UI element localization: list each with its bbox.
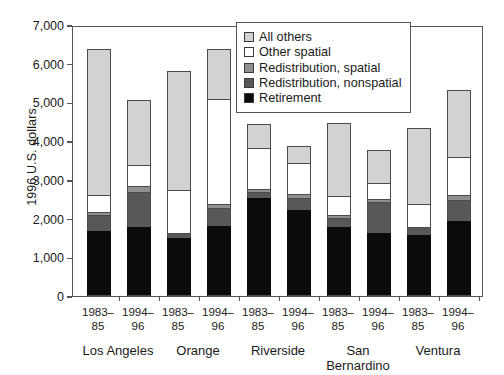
y-tick-label: 7,000 [0, 19, 64, 33]
bar-segment [87, 231, 111, 296]
x-tick-mark [479, 296, 480, 301]
x-group-label: Ventura [393, 343, 483, 358]
bar-stack [167, 71, 191, 296]
bar-segment [407, 204, 431, 227]
bar-segment [327, 123, 351, 196]
y-tick-label: 4,000 [0, 135, 64, 149]
bar-segment [87, 195, 111, 211]
x-tick-mark [159, 296, 160, 301]
bar-segment [287, 198, 311, 210]
bar-segment [247, 148, 271, 189]
bar-stack [127, 100, 151, 296]
y-tick-label: 3,000 [0, 174, 64, 188]
bar-segment [247, 124, 271, 148]
bar-segment [327, 218, 351, 227]
bar-stack [367, 150, 391, 296]
legend-label: Redistribution, nonspatial [259, 76, 401, 90]
x-group-label: San Bernardino [313, 343, 403, 373]
bar-stack [247, 124, 271, 296]
bar-segment [447, 157, 471, 194]
x-tick-mark [279, 296, 280, 301]
bar-segment [87, 215, 111, 230]
bar-segment [367, 183, 391, 200]
x-tick-mark [199, 296, 200, 301]
legend-label: All others [259, 30, 312, 44]
bar-segment [447, 221, 471, 296]
stacked-bar-chart: 1996 U.S. dollars 7,0006,0005,0004,0003,… [0, 0, 504, 375]
bar-segment [327, 196, 351, 215]
bar-stack [207, 49, 231, 296]
legend-swatch-icon [244, 78, 254, 88]
bar-segment [167, 238, 191, 296]
x-tick-mark [399, 296, 400, 301]
x-period-label: 1994– 96 [430, 306, 486, 333]
bar-segment [367, 233, 391, 296]
bar-segment [287, 146, 311, 163]
bar-segment [127, 227, 151, 296]
legend-label: Other spatial [259, 45, 331, 59]
bar-segment [207, 99, 231, 205]
legend-swatch-icon [244, 32, 254, 42]
legend-item: Other spatial [244, 45, 401, 59]
bar-segment [287, 163, 311, 194]
bar-stack [287, 146, 311, 296]
y-tick-label: 6,000 [0, 58, 64, 72]
bar-segment [367, 202, 391, 233]
bar-segment [167, 190, 191, 233]
y-tick-label: 1,000 [0, 251, 64, 265]
bar-segment [127, 192, 151, 226]
bar-segment [287, 210, 311, 296]
x-tick-mark [119, 296, 120, 301]
bar-segment [167, 71, 191, 191]
bar-segment [447, 90, 471, 157]
legend-item: Redistribution, nonspatial [244, 76, 401, 90]
legend: All othersOther spatialRedistribution, s… [236, 22, 411, 113]
x-tick-mark [359, 296, 360, 301]
x-tick-mark [439, 296, 440, 301]
y-tick-label: 2,000 [0, 213, 64, 227]
legend-item: Redistribution, spatial [244, 61, 401, 75]
bar-segment [207, 226, 231, 296]
bar-segment [127, 100, 151, 165]
legend-swatch-icon [244, 63, 254, 73]
x-tick-mark [319, 296, 320, 301]
bar-segment [207, 49, 231, 98]
x-group-label: Riverside [233, 343, 323, 358]
y-axis-tick-labels: 7,0006,0005,0004,0003,0002,0001,0000 [0, 0, 68, 375]
bar-segment [327, 227, 351, 296]
bar-segment [407, 227, 431, 235]
legend-item: All others [244, 30, 401, 44]
bar-stack [87, 49, 111, 296]
bar-segment [367, 150, 391, 182]
bar-segment [127, 165, 151, 186]
x-group-label: Orange [153, 343, 243, 358]
y-tick-label: 0 [0, 290, 64, 304]
y-tick-label: 5,000 [0, 96, 64, 110]
legend-swatch-icon [244, 93, 254, 103]
bar-segment [87, 49, 111, 195]
legend-label: Retirement [259, 91, 321, 105]
x-group-label: Los Angeles [73, 343, 163, 358]
bar-stack [407, 128, 431, 296]
bar-stack [447, 90, 471, 296]
legend-swatch-icon [244, 47, 254, 57]
legend-item: Retirement [244, 91, 401, 105]
x-tick-mark [239, 296, 240, 301]
legend-label: Redistribution, spatial [259, 61, 380, 75]
bar-segment [447, 200, 471, 221]
bar-segment [247, 198, 271, 296]
bar-segment [407, 235, 431, 296]
bar-stack [327, 123, 351, 296]
bar-segment [207, 208, 231, 227]
bar-segment [407, 128, 431, 204]
